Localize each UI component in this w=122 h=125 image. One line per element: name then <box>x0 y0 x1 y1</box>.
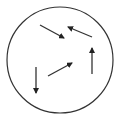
arrow-down-right-icon <box>40 25 64 38</box>
diagram-canvas <box>0 0 122 125</box>
boundary-circle <box>7 7 113 113</box>
arrow-up-right-icon <box>48 63 72 76</box>
arrow-up-left-icon <box>68 27 92 37</box>
arrows-group <box>36 25 92 93</box>
